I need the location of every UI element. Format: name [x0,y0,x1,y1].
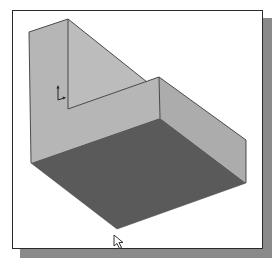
isometric-model-view[interactable] [0,0,279,268]
mouse-pointer-arrow-icon [113,234,125,250]
